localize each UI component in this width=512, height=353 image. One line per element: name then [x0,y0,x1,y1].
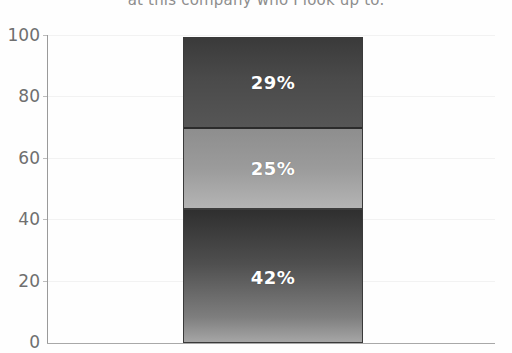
bar-segment-bottom-label: 42% [251,267,296,288]
y-axis-label-60: 60 [0,150,40,167]
x-axis-line [47,343,495,344]
bar-segment-bottom[interactable]: 42% [184,210,362,343]
y-axis-label-100: 100 [0,27,40,44]
y-axis-label-20: 20 [0,273,40,290]
y-axis-label-40: 40 [0,211,40,228]
y-axis-label-0: 0 [0,334,40,351]
bar-segment-middle[interactable]: 25% [184,129,362,210]
bar-segment-top-label: 29% [251,72,296,93]
chart-container: at this company who I look up to. 100 80… [0,0,512,353]
plot-area: 29% 25% 42% [48,35,495,343]
bar-segment-top[interactable]: 29% [184,38,362,129]
stacked-bar[interactable]: 29% 25% 42% [183,37,363,343]
y-axis-label-80: 80 [0,88,40,105]
chart-title: at this company who I look up to. [0,0,512,8]
bar-segment-middle-label: 25% [251,158,296,179]
